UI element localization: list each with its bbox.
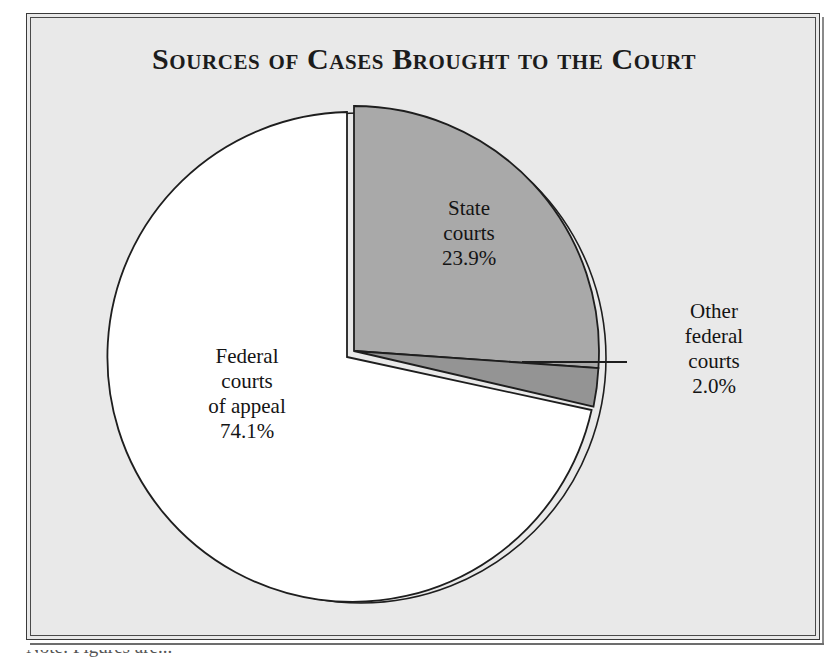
slice-value: 23.9% — [394, 246, 544, 271]
slice-label-line: federal — [644, 324, 784, 349]
slice-label-other-federal-courts: Other federal courts 2.0% — [644, 299, 784, 399]
frame-shadow-right — [822, 17, 824, 645]
pie-chart: State courts 23.9% Federal courts of app… — [27, 14, 821, 641]
slice-value: 2.0% — [644, 374, 784, 399]
slice-label-line: courts — [147, 369, 347, 394]
slice-label-state-courts: State courts 23.9% — [394, 196, 544, 271]
slice-value: 74.1% — [147, 419, 347, 444]
slice-label-line: of appeal — [147, 394, 347, 419]
figure-frame: Sources of Cases Brought to the Court St… — [26, 13, 820, 640]
slice-label-line: Other — [644, 299, 784, 324]
slice-label-line: courts — [394, 221, 544, 246]
slice-label-line: courts — [644, 349, 784, 374]
caption-fragment-clip: Note: Figures are... — [26, 650, 326, 657]
caption-fragment-text: Note: Figures are... — [26, 650, 172, 657]
slice-label-line: State — [394, 196, 544, 221]
frame-shadow-bottom — [30, 643, 824, 645]
slice-label-line: Federal — [147, 344, 347, 369]
figure-page: Sources of Cases Brought to the Court St… — [0, 0, 836, 657]
slice-label-federal-courts-of-appeal: Federal courts of appeal 74.1% — [147, 344, 347, 444]
